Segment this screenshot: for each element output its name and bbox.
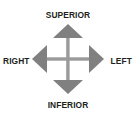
right-arrowhead (89, 45, 104, 73)
axis-label-superior: SUPERIOR (5, 10, 131, 20)
axis-label-inferior: INFERIOR (5, 100, 131, 110)
anatomical-orientation-figure: SUPERIOR RIGHT LEFT INFERIOR (0, 0, 136, 117)
axis-label-left: LEFT (111, 56, 132, 66)
four-way-arrow-cross-icon (22, 20, 114, 98)
axis-label-right: RIGHT (3, 56, 30, 66)
up-arrowhead (53, 24, 83, 38)
down-arrowhead (53, 80, 83, 94)
left-arrowhead (32, 45, 47, 73)
